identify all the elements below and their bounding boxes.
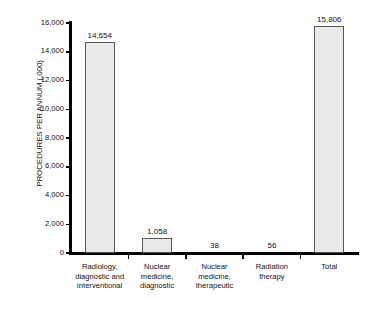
x-axis-tick	[300, 254, 302, 259]
y-axis-tick	[66, 22, 71, 24]
bar	[85, 42, 115, 253]
y-axis-tick-label: 16,000	[41, 19, 64, 27]
x-axis-tick	[128, 254, 130, 259]
y-axis-tick-label: 4,000	[45, 191, 64, 199]
y-axis-tick-label: 12,000	[41, 76, 64, 84]
y-axis-tick	[66, 109, 71, 111]
y-axis-tick	[66, 80, 71, 82]
y-axis-tick-label: 2,000	[45, 220, 64, 228]
y-axis-tick	[66, 166, 71, 168]
category-label-line: therapy	[237, 272, 306, 282]
y-axis-title: PROCEDURES PER ANNUM (,000)	[35, 29, 44, 219]
bar-value-label: 14,654	[70, 31, 130, 40]
y-axis-tick-label: 8,000	[45, 134, 64, 142]
x-axis-tick	[242, 254, 244, 259]
y-axis-tick-label: 0	[60, 249, 64, 257]
bar	[142, 238, 172, 253]
bar-chart: PROCEDURES PER ANNUM (,000) 02,0004,0006…	[0, 0, 375, 315]
y-axis-tick-label: 6,000	[45, 162, 64, 170]
y-axis-tick	[66, 224, 71, 226]
y-axis-tick	[66, 51, 71, 53]
bar-value-label: 15,806	[299, 15, 359, 24]
x-axis-category-label: Total	[295, 262, 364, 272]
y-axis-tick-label: 10,000	[41, 105, 64, 113]
x-axis-tick	[185, 254, 187, 259]
bar-value-label: 1,058	[127, 227, 187, 236]
y-axis-tick	[66, 195, 71, 197]
y-axis-tick	[66, 137, 71, 139]
y-axis-tick	[66, 252, 71, 254]
bar	[314, 26, 344, 253]
category-label-line: Total	[295, 262, 364, 272]
bar-value-label: 56	[242, 241, 302, 250]
y-axis-tick-label: 14,000	[41, 47, 64, 55]
bar-value-label: 38	[185, 241, 245, 250]
category-label-line: therapeutic	[180, 281, 249, 291]
